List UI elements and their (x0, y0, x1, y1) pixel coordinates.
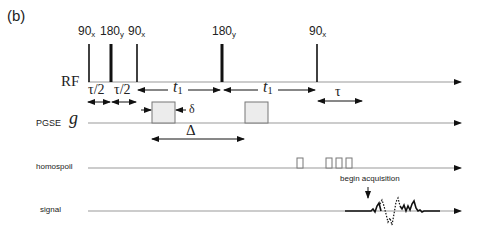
tau-half-label-2: τ/2 (114, 82, 131, 98)
pulse-label-3: 90x (128, 24, 145, 39)
tau-half-label-1: τ/2 (88, 82, 105, 98)
gradient-pulse-2 (245, 102, 268, 123)
pgse-pulse-sequence-diagram: (b) 90x 180y 90x 180y 90x RF PGSE g homo… (0, 0, 484, 236)
pulse-label-5: 90x (309, 24, 326, 39)
panel-label: (b) (7, 7, 25, 24)
pulse-label-4: 180y (212, 24, 236, 39)
homospoil-pulses (297, 158, 352, 168)
small-delta-label: δ (189, 102, 195, 117)
gradient-pulse-1 (152, 102, 175, 123)
tau-label: τ (335, 84, 341, 100)
pgse-row-label: PGSE (36, 118, 61, 128)
gradient-pulses (152, 102, 268, 123)
rf-row-label: RF (61, 73, 79, 90)
homospoil-row-label: homospoil (36, 162, 72, 171)
pulse-label-1: 90x (78, 24, 95, 39)
pulse-label-2: 180y (100, 24, 124, 39)
t1-label-2: t1 (263, 78, 273, 96)
rf-pulses (89, 44, 317, 82)
signal-row-label: signal (40, 205, 61, 214)
big-delta-label: Δ (186, 122, 196, 139)
begin-acquisition-label: begin acquisition (340, 174, 400, 183)
gradient-symbol: g (69, 108, 78, 129)
t1-label-1: t1 (173, 78, 183, 96)
